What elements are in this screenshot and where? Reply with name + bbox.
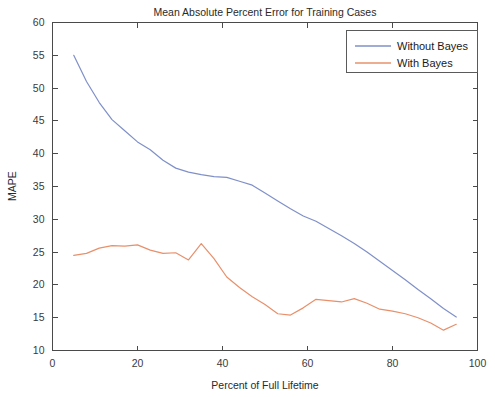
- y-tick-label: 40: [33, 147, 45, 159]
- x-tick-label: 80: [387, 357, 399, 369]
- x-tick-label: 0: [50, 357, 56, 369]
- legend-label[interactable]: Without Bayes: [397, 40, 468, 52]
- x-tick-label: 100: [469, 357, 487, 369]
- y-tick-label: 10: [33, 344, 45, 356]
- y-tick-label: 15: [33, 311, 45, 323]
- y-tick-label: 55: [33, 49, 45, 61]
- y-tick-label: 25: [33, 246, 45, 258]
- x-tick-label: 60: [302, 357, 314, 369]
- y-tick-label: 30: [33, 213, 45, 225]
- x-axis-label: Percent of Full Lifetime: [211, 379, 319, 391]
- chart-title: Mean Absolute Percent Error for Training…: [154, 6, 377, 18]
- chart-legend[interactable]: Without BayesWith Bayes: [347, 31, 478, 73]
- x-tick-label: 20: [132, 357, 144, 369]
- x-tick-label: 40: [217, 357, 229, 369]
- chart-figure: Mean Absolute Percent Error for Training…: [0, 0, 495, 397]
- legend-label[interactable]: With Bayes: [397, 57, 453, 69]
- y-tick-label: 45: [33, 114, 45, 126]
- chart-svg: Mean Absolute Percent Error for Training…: [0, 0, 495, 397]
- y-tick-label: 35: [33, 180, 45, 192]
- y-tick-label: 50: [33, 82, 45, 94]
- y-tick-label: 20: [33, 278, 45, 290]
- y-tick-label: 60: [33, 16, 45, 28]
- y-axis-label: MAPE: [6, 171, 18, 201]
